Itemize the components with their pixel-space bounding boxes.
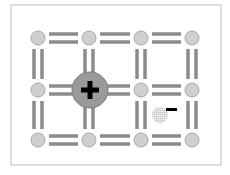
- bond-horizontal: [100, 40, 130, 44]
- bond-vertical: [186, 49, 190, 79]
- atom: [82, 31, 96, 45]
- bond-horizontal: [152, 32, 181, 36]
- bond-vertical: [135, 49, 139, 79]
- bond-horizontal: [49, 40, 78, 44]
- bond-vertical: [32, 101, 36, 129]
- minus-icon: [166, 108, 177, 111]
- bond-horizontal: [100, 32, 130, 36]
- bond-vertical: [40, 101, 44, 129]
- bond-vertical: [40, 49, 44, 79]
- bond-horizontal: [49, 142, 78, 146]
- lattice-diagram: + −: [0, 0, 230, 175]
- bond-horizontal: [152, 134, 181, 138]
- bond-horizontal: [152, 40, 181, 44]
- atom: [185, 133, 199, 147]
- atom: [31, 83, 45, 97]
- bond-horizontal: [152, 142, 181, 146]
- bond-vertical: [194, 101, 198, 129]
- bond-vertical: [143, 49, 147, 79]
- atom: [134, 31, 148, 45]
- bond-horizontal: [100, 142, 130, 146]
- atom: [134, 83, 148, 97]
- bond-horizontal: [152, 84, 181, 88]
- atom: [134, 133, 148, 147]
- bond-vertical: [32, 49, 36, 79]
- bond-vertical: [143, 101, 147, 129]
- atom: [185, 31, 199, 45]
- atom: [31, 31, 45, 45]
- ion: [72, 72, 108, 108]
- bond-horizontal: [100, 134, 130, 138]
- bond-horizontal: [152, 92, 181, 96]
- atom: [82, 133, 96, 147]
- bond-horizontal: [49, 32, 78, 36]
- atom: [31, 133, 45, 147]
- electron-circle: [152, 107, 168, 123]
- bond-vertical: [186, 101, 190, 129]
- bond-vertical: [135, 101, 139, 129]
- plus-icon-vertical: [88, 81, 93, 99]
- bond-vertical: [194, 49, 198, 79]
- atom: [185, 83, 199, 97]
- bond-horizontal: [49, 134, 78, 138]
